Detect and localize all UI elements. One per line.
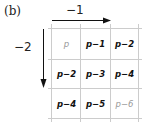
grid-cell: p bbox=[52, 29, 81, 59]
grid-cell: p−5 bbox=[81, 89, 110, 119]
grid-cell: p−2 bbox=[111, 29, 138, 59]
grid-cell: p−6 bbox=[111, 89, 138, 119]
horizontal-arrow-icon bbox=[52, 18, 111, 24]
vertical-arrow-icon bbox=[41, 29, 47, 88]
grid-cell: p−4 bbox=[52, 89, 81, 119]
grid-cell: p−4 bbox=[111, 59, 138, 89]
grid-cell: p−3 bbox=[81, 59, 110, 89]
grid-cell: p−1 bbox=[81, 29, 110, 59]
grid-cell: p−2 bbox=[52, 59, 81, 89]
